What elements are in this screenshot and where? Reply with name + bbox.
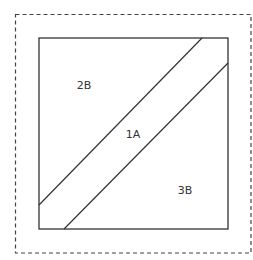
piece-label-1a: 1A [126, 128, 141, 141]
piece-label-3b: 3B [178, 184, 193, 197]
piece-label-2b: 2B [77, 79, 92, 92]
quilt-block-diagram: 2B 1A 3B [0, 0, 253, 260]
strip-line-upper [39, 38, 202, 205]
